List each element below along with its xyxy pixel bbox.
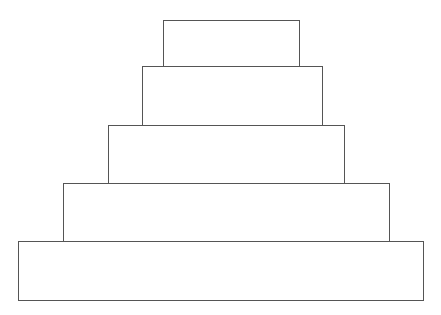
pyramid-tier-5 [18,241,424,301]
pyramid-tier-3 [108,125,345,184]
pyramid-tier-2 [142,66,323,126]
pyramid-tier-4 [63,183,390,242]
pyramid-tier-1 [163,20,300,67]
pyramid-diagram [0,0,441,315]
